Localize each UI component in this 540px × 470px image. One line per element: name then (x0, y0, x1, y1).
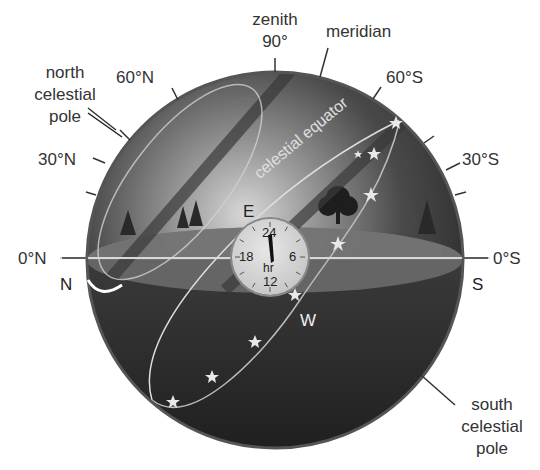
clock-unit: hr (263, 261, 274, 275)
ncp-label-line3: pole (20, 107, 110, 126)
tick-0n-label: 0°N (18, 249, 47, 268)
tick-60s-label: 60°S (386, 68, 423, 87)
scp-label-line3: pole (452, 439, 532, 458)
clock-icon: 24 6 12 18 hr (232, 219, 308, 295)
zenith-label: zenith (245, 10, 305, 29)
scp-label-line2: celestial (452, 417, 532, 436)
ncp-label-line2: celestial (20, 85, 110, 104)
direction-west: W (300, 311, 316, 331)
clock-6: 6 (289, 249, 296, 264)
direction-north: N (60, 275, 72, 295)
clock-24: 24 (262, 225, 276, 240)
tick-60n-label: 60°N (116, 68, 154, 87)
celestial-sphere-diagram: celestial equator zenith 90° meridian no… (0, 0, 540, 470)
meridian-label: meridian (326, 22, 391, 41)
scp-label-line1: south (452, 395, 532, 414)
tick-0s-label: 0°S (493, 249, 521, 268)
clock-18: 18 (239, 249, 253, 264)
clock-12: 12 (263, 274, 277, 289)
direction-south: S (472, 275, 483, 295)
tick-30s-label: 30°S (462, 150, 499, 169)
zenith-angle-label: 90° (245, 32, 305, 51)
tick-30n-label: 30°N (38, 150, 76, 169)
ncp-label-line1: north (20, 63, 110, 82)
